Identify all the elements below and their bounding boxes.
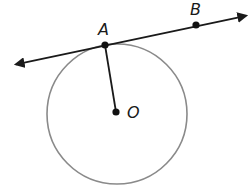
point-b-dot (192, 21, 199, 28)
radius-segment-ao (105, 45, 116, 112)
geometry-figure: A B O (0, 0, 251, 186)
label-b: B (190, 0, 201, 19)
diagram-svg: A B O (0, 0, 251, 186)
tangent-line-ab (16, 16, 246, 65)
point-o-dot (112, 108, 119, 115)
label-o: O (127, 103, 140, 122)
point-a-dot (101, 41, 108, 48)
label-a: A (97, 20, 109, 39)
